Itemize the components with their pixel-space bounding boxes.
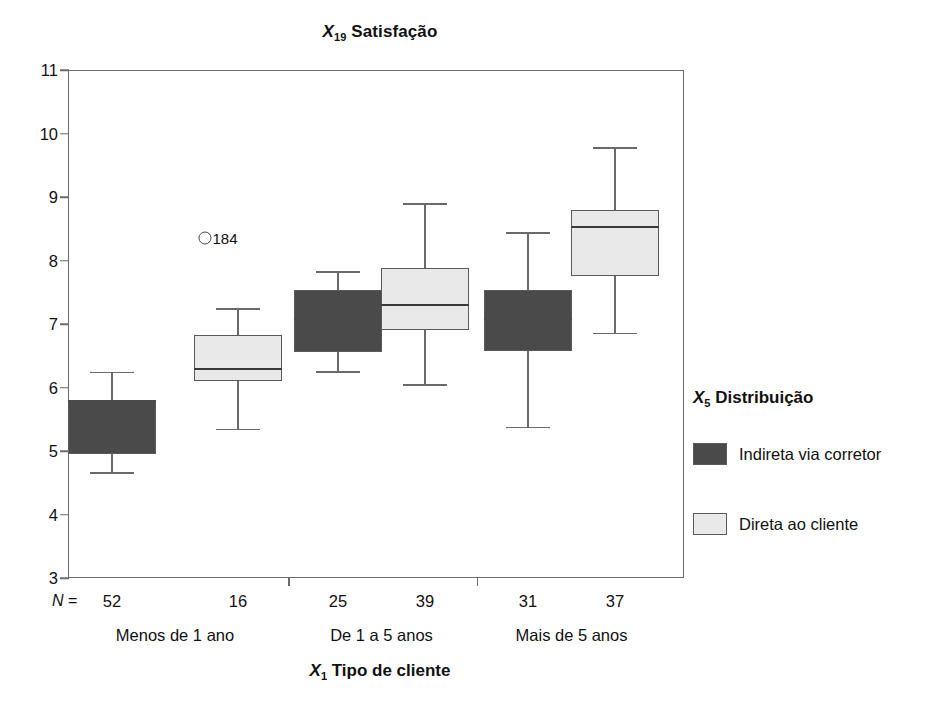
legend-title: X5 Distribuição	[693, 388, 933, 409]
x-axis-title-variable: X	[310, 661, 321, 680]
whisker-lower-line	[237, 381, 238, 429]
n-value: 31	[519, 592, 537, 611]
whisker-upper-line	[424, 203, 425, 268]
box-plot-box	[571, 210, 659, 276]
n-value: 16	[229, 592, 247, 611]
legend: X5 Distribuição Indireta via corretor Di…	[693, 388, 933, 583]
n-value: 39	[416, 592, 434, 611]
legend-label-indireta: Indireta via corretor	[739, 445, 881, 464]
box-plot-box	[68, 400, 156, 454]
boxplot-chart: X19 Satisfação 11109876543 184 N = 52162…	[0, 0, 937, 714]
whisker-upper-cap	[506, 232, 550, 234]
whisker-upper-line	[337, 271, 338, 290]
category-label: De 1 a 5 anos	[330, 626, 433, 645]
whisker-upper-cap	[90, 372, 134, 374]
box-plot-box	[484, 290, 572, 351]
n-value: 25	[329, 592, 347, 611]
plot-marks-layer: 184	[0, 0, 937, 714]
legend-title-variable: X	[693, 388, 704, 407]
whisker-upper-line	[527, 232, 528, 290]
outlier-label: 184	[212, 230, 237, 247]
n-row-prefix: N =	[52, 592, 77, 610]
y-tick-mark	[60, 514, 69, 516]
whisker-lower-line	[527, 351, 528, 427]
x-tick-mark	[477, 578, 479, 586]
outlier-circle-icon	[198, 232, 211, 245]
outlier-point: 184	[198, 230, 237, 247]
y-tick-mark	[60, 450, 69, 452]
y-tick-mark	[60, 387, 69, 389]
whisker-lower-line	[614, 276, 615, 333]
n-value: 37	[606, 592, 624, 611]
whisker-upper-line	[111, 372, 112, 401]
whisker-upper-cap	[403, 203, 447, 205]
legend-swatch-icon-indireta	[693, 443, 727, 465]
whisker-lower-cap	[216, 429, 260, 431]
whisker-upper-cap	[216, 308, 260, 310]
box-plot-box	[381, 268, 469, 330]
y-tick-mark	[60, 577, 69, 579]
whisker-lower-cap	[593, 333, 637, 335]
whisker-lower-cap	[403, 384, 447, 386]
median-line	[484, 318, 572, 320]
legend-item-indireta: Indireta via corretor	[693, 443, 933, 465]
category-label: Mais de 5 anos	[516, 626, 628, 645]
x-axis-title-text: Tipo de cliente	[327, 661, 450, 680]
median-line	[294, 318, 382, 320]
y-tick-mark	[60, 196, 69, 198]
y-tick-mark	[60, 323, 69, 325]
box-plot-box	[194, 335, 282, 381]
whisker-upper-line	[614, 147, 615, 209]
whisker-lower-line	[337, 352, 338, 371]
y-tick-mark	[60, 133, 69, 135]
whisker-lower-cap	[90, 472, 134, 474]
y-tick-mark	[60, 69, 69, 71]
x-axis-title: X1 Tipo de cliente	[190, 661, 570, 682]
x-tick-mark	[288, 578, 290, 586]
y-tick-mark	[60, 260, 69, 262]
median-line	[381, 304, 469, 306]
whisker-lower-cap	[506, 427, 550, 429]
whisker-lower-line	[111, 454, 112, 472]
median-line	[571, 226, 659, 228]
legend-item-direta: Direta ao cliente	[693, 513, 933, 535]
box-plot-box	[294, 290, 382, 352]
n-value: 52	[103, 592, 121, 611]
whisker-upper-cap	[316, 271, 360, 273]
legend-title-text: Distribuição	[710, 388, 813, 407]
whisker-upper-line	[237, 308, 238, 335]
whisker-upper-cap	[593, 147, 637, 149]
whisker-lower-cap	[316, 371, 360, 373]
median-line	[194, 368, 282, 370]
median-line	[68, 400, 156, 402]
legend-swatch-icon-direta	[693, 513, 727, 535]
category-label: Menos de 1 ano	[116, 626, 234, 645]
whisker-lower-line	[424, 330, 425, 384]
legend-label-direta: Direta ao cliente	[739, 515, 858, 534]
